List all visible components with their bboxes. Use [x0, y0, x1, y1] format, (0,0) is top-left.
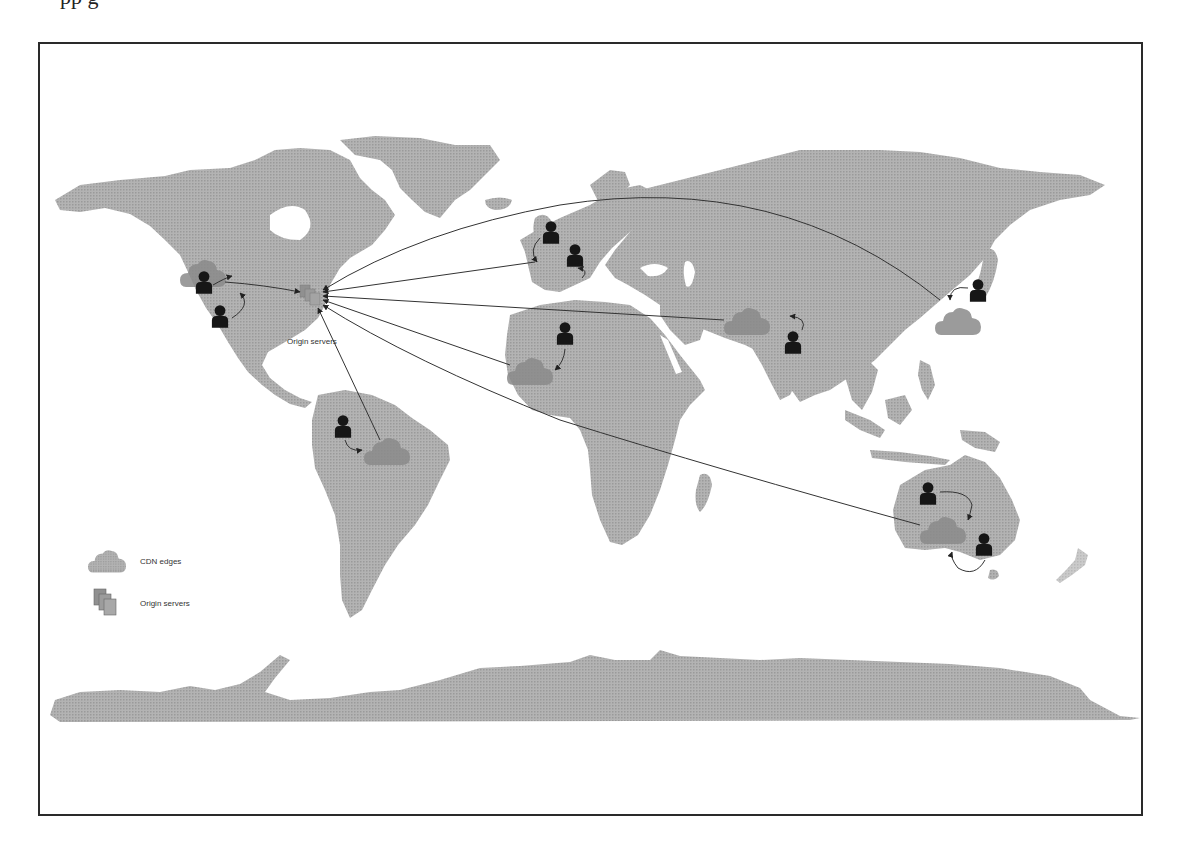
- legend-label: Origin servers: [140, 599, 190, 608]
- legend-item-origin-servers: Origin servers: [88, 582, 190, 624]
- cdn-edge-cloud-icon-japan: [935, 308, 981, 335]
- antarctica: [50, 650, 1140, 722]
- world-map: [0, 0, 1177, 853]
- south-america: [312, 390, 450, 618]
- server-stack-icon: [88, 588, 126, 618]
- legend-label: CDN edges: [140, 557, 181, 566]
- cloud-icon: [88, 546, 126, 576]
- land-masses: [50, 136, 1140, 722]
- australia: [893, 455, 1020, 560]
- origin-servers-label: Origin servers: [287, 337, 337, 346]
- legend: CDN edges Origin servers: [88, 540, 190, 624]
- africa: [505, 300, 705, 545]
- legend-item-cdn-edges: CDN edges: [88, 540, 190, 582]
